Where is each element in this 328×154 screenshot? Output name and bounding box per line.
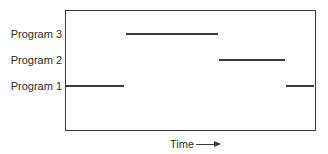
- row-label-program-3: Program 3: [0, 28, 62, 40]
- timeline-frame: [65, 10, 316, 131]
- row-label-program-1: Program 1: [0, 80, 62, 92]
- segment-program-1-second: [286, 85, 314, 87]
- right-arrow-icon: [196, 144, 216, 145]
- segment-program-2: [219, 59, 285, 61]
- row-label-program-2: Program 2: [0, 54, 62, 66]
- x-axis-label: Time: [170, 138, 194, 150]
- segment-program-1-first: [65, 85, 124, 87]
- segment-program-3: [126, 33, 218, 35]
- arrow-head-icon: [214, 141, 221, 147]
